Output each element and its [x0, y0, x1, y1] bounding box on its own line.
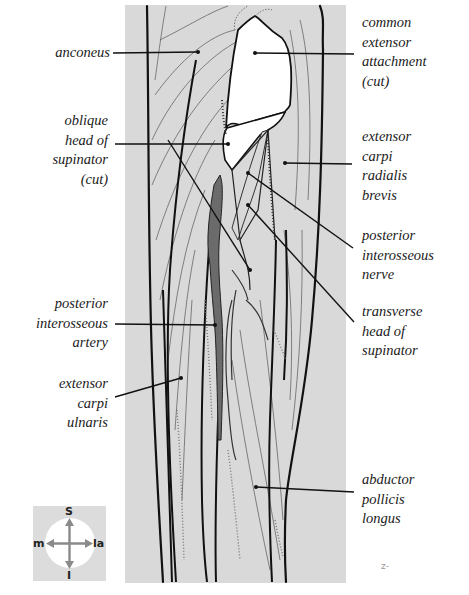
- label-transverse-head-of-supinator: transverse head of supinator: [362, 302, 422, 361]
- compass-medial-label: m: [33, 538, 44, 549]
- medial-border-outline: [147, 6, 163, 582]
- leader-pi-artery: [115, 324, 215, 325]
- leader-common-extensor: [255, 53, 354, 54]
- label-posterior-interosseous-artery: posterior interosseous artery: [36, 294, 108, 353]
- leader-ecrb: [285, 163, 352, 164]
- label-oblique-head-of-supinator: oblique head of supinator (cut): [52, 111, 108, 189]
- leader-ecu: [115, 378, 181, 397]
- label-posterior-interosseous-nerve: posterior interosseous nerve: [362, 226, 434, 285]
- compass-lateral-label: la: [93, 538, 104, 549]
- compass-superior-label: S: [65, 506, 73, 517]
- label-abductor-pollicis-longus: abductor pollicis longus: [362, 470, 414, 529]
- common-extensor-attachment-shape: [226, 16, 291, 128]
- compass-inferior-label: I: [67, 570, 71, 581]
- leader-anconeus: [113, 52, 198, 53]
- label-extensor-carpi-ulnaris: extensor carpi ulnaris: [59, 374, 108, 433]
- anatomy-figure: anconeus oblique head of supinator (cut)…: [0, 0, 469, 595]
- label-anconeus: anconeus: [55, 43, 110, 63]
- label-common-extensor-attachment: common extensor attachment (cut): [362, 13, 426, 91]
- leader-apl: [256, 487, 354, 492]
- artist-mark: z-: [381, 561, 389, 571]
- leader-pi-nerve: [248, 173, 353, 248]
- orientation-compass: S I m la: [33, 506, 106, 581]
- label-extensor-carpi-radialis-brevis: extensor carpi radialis brevis: [362, 127, 411, 205]
